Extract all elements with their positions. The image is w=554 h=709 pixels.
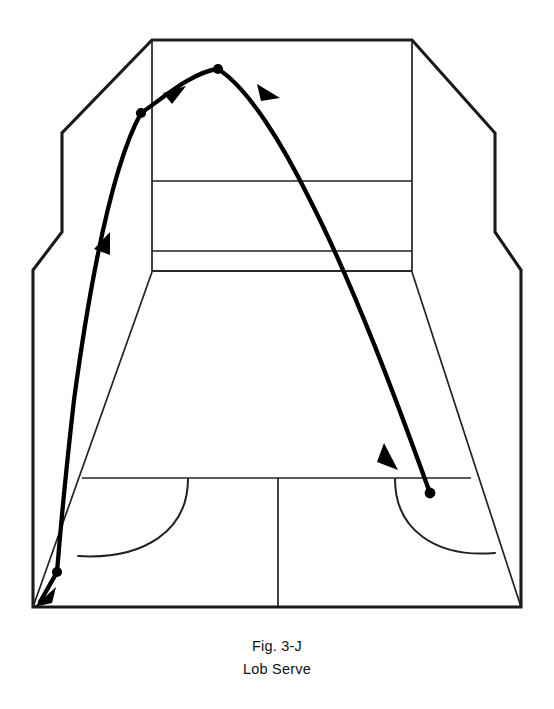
trajectory-arrow-ascending-upper [257,84,280,101]
court-outer-boundary [33,40,521,607]
floor-right-edge [412,272,521,607]
figure-number: Fig. 3-J [0,636,554,658]
apex-dot [213,64,223,74]
figure-caption: Fig. 3-J Lob Serve [0,636,554,681]
serve-origin-dot [425,488,436,499]
right-service-arc [395,479,495,554]
lob-serve-trajectory-group [34,64,435,607]
court-floor-group [33,272,521,607]
front-wall-panel [152,40,412,271]
front-wall-group [152,40,412,271]
service-zone-group [82,478,471,607]
court-diagram [0,0,554,709]
figure-title: Lob Serve [0,659,554,681]
landing-dot [52,567,62,577]
figure-container: Fig. 3-J Lob Serve [0,0,554,709]
wall-contact-dot [136,108,146,118]
trajectory-arrow-ascending-lower [377,443,398,470]
left-service-arc [78,479,188,556]
trajectory-ascending [218,69,430,493]
